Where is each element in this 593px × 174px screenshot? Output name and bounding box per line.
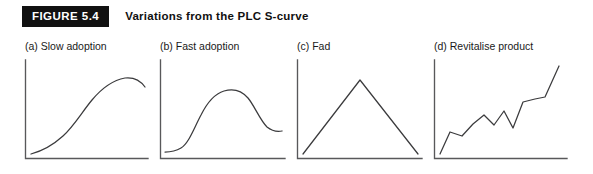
chart-axes-revitalise-product (435, 60, 568, 159)
chart-label-fad: (c) Fad (297, 40, 330, 52)
chart-panel-fad: (c) Fad (294, 40, 432, 166)
chart-svg-fast-adoption (157, 58, 295, 162)
chart-svg-slow-adoption (22, 58, 160, 162)
chart-plot-fast-adoption (157, 58, 295, 162)
chart-panel-revitalise-product: (d) Revitalise product (431, 40, 569, 166)
chart-panel-slow-adoption: (a) Slow adoption (22, 40, 160, 166)
figure-container: FIGURE 5.4 Variations from the PLC S-cur… (0, 0, 593, 174)
chart-plot-slow-adoption (22, 58, 160, 162)
figure-number-badge: FIGURE 5.4 (22, 6, 109, 27)
chart-panel-fast-adoption: (b) Fast adoption (157, 40, 295, 166)
chart-label-slow-adoption: (a) Slow adoption (25, 40, 107, 52)
chart-curve-fast-adoption (165, 90, 282, 152)
chart-svg-fad (294, 58, 432, 162)
chart-axes-slow-adoption (26, 60, 149, 159)
chart-curve-fad (303, 80, 418, 154)
chart-label-fast-adoption: (b) Fast adoption (160, 40, 239, 52)
chart-label-revitalise-product: (d) Revitalise product (434, 40, 533, 52)
chart-curve-revitalise-product (440, 66, 559, 154)
chart-curve-slow-adoption (31, 78, 145, 154)
figure-title: Variations from the PLC S-curve (125, 6, 309, 27)
chart-svg-revitalise-product (431, 58, 569, 162)
chart-plot-fad (294, 58, 432, 162)
figure-header: FIGURE 5.4 Variations from the PLC S-cur… (22, 6, 309, 27)
figure-panels: (a) Slow adoption (b) Fast adoption (c) … (0, 40, 593, 166)
chart-axes-fad (298, 60, 423, 159)
chart-axes-fast-adoption (161, 60, 286, 159)
chart-plot-revitalise-product (431, 58, 569, 162)
